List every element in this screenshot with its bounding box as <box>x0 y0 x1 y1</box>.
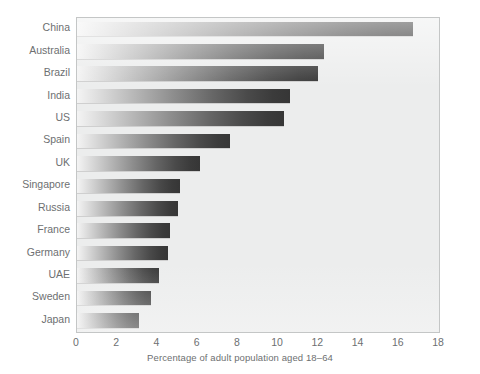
bar-row <box>77 287 439 309</box>
bar-uae <box>77 268 159 283</box>
bar-row <box>77 108 439 130</box>
bar-spain <box>77 134 230 149</box>
bar-row <box>77 130 439 152</box>
bar-row <box>77 40 439 62</box>
bar-row <box>77 242 439 264</box>
bar-uk <box>77 156 200 171</box>
bar-row <box>77 18 439 40</box>
bar-japan <box>77 313 139 328</box>
x-axis-title: Percentage of adult population aged 18–6… <box>0 352 480 363</box>
x-tick-2: 2 <box>113 336 119 348</box>
bar-row <box>77 85 439 107</box>
bar-china <box>77 22 413 37</box>
bars-layer <box>77 18 439 332</box>
bar-sweden <box>77 291 151 306</box>
bar-us <box>77 111 284 126</box>
category-label-japan: Japan <box>0 314 70 325</box>
category-label-singapore: Singapore <box>0 179 70 190</box>
x-tick-6: 6 <box>194 336 200 348</box>
category-label-spain: Spain <box>0 134 70 145</box>
category-label-uk: UK <box>0 157 70 168</box>
bar-russia <box>77 201 178 216</box>
category-label-us: US <box>0 112 70 123</box>
bar-india <box>77 89 290 104</box>
bar-chart: ChinaAustraliaBrazilIndiaUSSpainUKSingap… <box>0 0 480 374</box>
category-label-france: France <box>0 224 70 235</box>
category-label-china: China <box>0 22 70 33</box>
x-tick-12: 12 <box>311 336 323 348</box>
category-label-australia: Australia <box>0 45 70 56</box>
x-axis: 024681012141618 <box>76 333 440 353</box>
bar-row <box>77 153 439 175</box>
category-label-germany: Germany <box>0 247 70 258</box>
category-label-russia: Russia <box>0 202 70 213</box>
x-tick-4: 4 <box>154 336 160 348</box>
bar-row <box>77 197 439 219</box>
plot-area <box>76 17 440 333</box>
bar-row <box>77 265 439 287</box>
bar-row <box>77 220 439 242</box>
x-tick-14: 14 <box>352 336 364 348</box>
bar-row <box>77 175 439 197</box>
x-tick-0: 0 <box>73 336 79 348</box>
bar-germany <box>77 246 168 261</box>
x-tick-8: 8 <box>234 336 240 348</box>
category-label-sweden: Sweden <box>0 291 70 302</box>
category-label-uae: UAE <box>0 269 70 280</box>
x-tick-18: 18 <box>432 336 444 348</box>
bar-brazil <box>77 66 318 81</box>
x-tick-10: 10 <box>271 336 283 348</box>
category-axis-labels: ChinaAustraliaBrazilIndiaUSSpainUKSingap… <box>0 17 70 333</box>
bar-row <box>77 63 439 85</box>
category-label-india: India <box>0 90 70 101</box>
bar-singapore <box>77 179 180 194</box>
bar-australia <box>77 44 324 59</box>
bar-france <box>77 223 170 238</box>
category-label-brazil: Brazil <box>0 67 70 78</box>
x-tick-16: 16 <box>392 336 404 348</box>
bar-row <box>77 310 439 332</box>
